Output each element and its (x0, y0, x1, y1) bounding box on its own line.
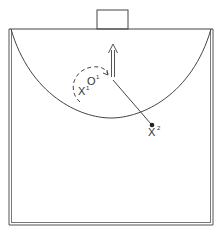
player-x2: X (148, 127, 155, 138)
player-o1-number: 1 (96, 74, 99, 80)
player-x2-number: 2 (157, 125, 160, 131)
arrow-up-icon (109, 44, 118, 53)
player-o1: O (87, 76, 96, 87)
player-x1: X (78, 86, 85, 97)
court-diagram (0, 0, 222, 245)
goal (97, 10, 128, 29)
dashed-run-arrowhead-icon (103, 70, 108, 75)
